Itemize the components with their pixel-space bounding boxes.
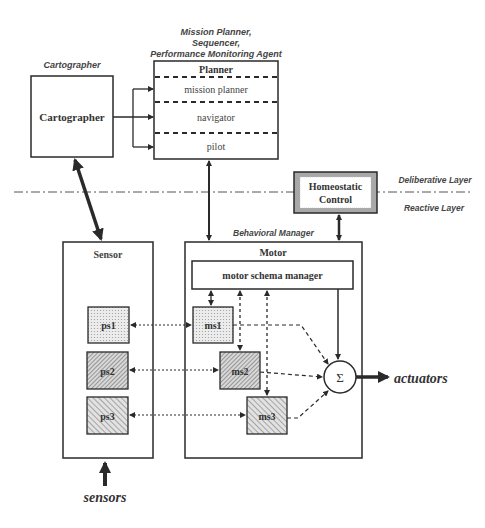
perceptual-schema-ps1: ps1 — [88, 307, 129, 343]
perceptual-schema-ps3: ps3 — [87, 397, 128, 434]
motor-schema-manager-box: motor schema manager — [192, 261, 353, 289]
planner-title: Planner — [199, 64, 233, 75]
svg-text:ps1: ps1 — [101, 320, 115, 331]
sensor-title: Sensor — [94, 249, 123, 260]
planner-caption-line1: Mission Planner, — [180, 27, 251, 37]
cartographer-label: Cartographer — [39, 111, 104, 123]
deliberative-layer-label: Deliberative Layer — [398, 175, 472, 185]
svg-text:ps3: ps3 — [100, 411, 114, 422]
summation-node: Σ — [324, 361, 356, 393]
planner-caption-line3: Performance Monitoring Agent — [150, 49, 283, 59]
cartographer-box: Cartographer — [31, 76, 113, 157]
svg-text:motor schema manager: motor schema manager — [222, 270, 323, 281]
motor-box: Motor motor schema manager ms1 ms2 ms3 — [185, 242, 362, 458]
planner-section-pilot: pilot — [207, 141, 226, 152]
svg-text:ms3: ms3 — [258, 411, 275, 422]
planner-section-navigator: navigator — [197, 112, 235, 123]
behavioral-manager-caption: Behavioral Manager — [233, 228, 314, 238]
planner-section-mission-planner: mission planner — [184, 84, 248, 95]
svg-text:ms2: ms2 — [231, 366, 248, 377]
motor-title: Motor — [259, 247, 287, 258]
motor-schema-ms2: ms2 — [220, 352, 260, 389]
svg-text:Σ: Σ — [336, 370, 344, 385]
homeostatic-line1: Homeostatic — [309, 181, 363, 192]
svg-text:ms1: ms1 — [204, 320, 221, 331]
planner-box: Planner mission planner navigator pilot — [154, 61, 278, 159]
sensors-label: sensors — [83, 490, 127, 505]
svg-text:ps2: ps2 — [100, 366, 114, 377]
cartographer-caption: Cartographer — [43, 60, 101, 70]
homeostatic-line2: Control — [319, 194, 352, 205]
cartographer-to-planner-arrows — [113, 89, 153, 147]
motor-schema-ms1: ms1 — [193, 307, 233, 343]
reactive-layer-label: Reactive Layer — [404, 203, 465, 213]
motor-schema-ms3: ms3 — [247, 397, 287, 434]
cartographer-sensor-arrow — [75, 160, 101, 239]
actuators-label: actuators — [394, 371, 448, 386]
planner-caption-line2: Sequencer, — [192, 38, 240, 48]
autonomous-robot-architecture-diagram: Cartographer Mission Planner, Sequencer,… — [0, 0, 485, 528]
perceptual-schema-ps2: ps2 — [87, 352, 128, 389]
sensor-box: Sensor ps1 ps2 ps3 — [63, 242, 153, 458]
homeostatic-control-box: Homeostatic Control — [294, 172, 377, 213]
